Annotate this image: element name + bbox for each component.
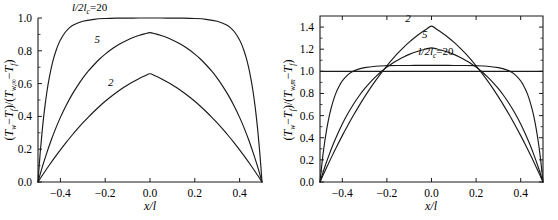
left-y-tick-labels: 0.00.20.40.60.81.0 [18, 12, 33, 188]
svg-text:(Tw−Tf)/(Tw,m−Tf): (Tw−Tf)/(Tw,m−Tf) [281, 60, 297, 141]
right-x-tickmarks [342, 16, 520, 182]
x-tick-label: 0.2 [469, 187, 484, 199]
curve-annotation-20: l/2lc=20 [72, 1, 108, 15]
curve-annotation-5: 5 [95, 33, 101, 45]
curve-annotation-20: l/2lc=20 [418, 45, 454, 59]
y-tick-label: 1.4 [300, 21, 315, 33]
left-axes-frame [38, 18, 262, 182]
curve-annotation-5: 5 [422, 28, 428, 40]
x-tick-label: 0.4 [514, 187, 529, 199]
y-tick-label: 1.0 [18, 12, 33, 24]
chart-panel-left: −0.4−0.20.00.20.4 0.00.20.40.60.81.0 l/2… [0, 0, 279, 220]
x-tick-label: −0.2 [95, 187, 116, 199]
right-chart-svg: −0.4−0.20.00.20.4 0.00.20.40.60.81.01.21… [279, 0, 558, 220]
y-tick-label: 0.6 [300, 110, 315, 122]
curve-series-l2lc20 [320, 65, 543, 182]
svg-text:(Tw−Tf)/(Tw,∞−Tf): (Tw−Tf)/(Tw,∞−Tf) [2, 60, 18, 141]
y-tick-label: 0.4 [18, 110, 33, 122]
x-tick-label: 0.0 [143, 187, 158, 199]
left-chart-svg: −0.4−0.20.00.20.4 0.00.20.40.60.81.0 l/2… [0, 0, 279, 220]
y-tick-label: 0.0 [300, 176, 315, 188]
x-tick-label: −0.4 [332, 187, 353, 199]
curve-series-l2lc20 [38, 18, 262, 182]
y-tick-label: 0.8 [18, 45, 33, 57]
y-tick-label: 0.4 [300, 132, 315, 144]
curve-series-5 [38, 33, 262, 182]
left-curve-annotations: l/2lc=2052 [72, 1, 114, 88]
right-y-tick-labels: 0.00.20.40.60.81.01.21.4 [300, 21, 315, 188]
y-tick-label: 0.2 [300, 154, 315, 166]
ylabel-den-sub1: w,m [288, 79, 297, 91]
annotation-value: =20 [436, 45, 454, 57]
annotation-l-over-2lc: l/2l [72, 1, 87, 13]
x-tick-label: −0.4 [50, 187, 71, 199]
chart-panel-right: −0.4−0.20.00.20.4 0.00.20.40.60.81.01.21… [279, 0, 558, 220]
left-x-tick-labels: −0.4−0.20.00.20.4 [50, 187, 247, 199]
curve-annotation-2: 2 [108, 76, 114, 88]
y-tick-label: 0.2 [18, 143, 33, 155]
right-x-tick-labels: −0.4−0.20.00.20.4 [332, 187, 528, 199]
left-x-axis-title: x/l [143, 199, 157, 213]
left-y-axis-title: (Tw−Tf)/(Tw,∞−Tf) [2, 60, 18, 141]
ylabel-den-sub1: w,∞ [9, 79, 18, 91]
y-tick-label: 1.0 [300, 65, 315, 77]
annotation-value: =20 [90, 1, 108, 13]
y-tick-label: 1.2 [300, 43, 315, 55]
figure-two-panel-line-charts: −0.4−0.20.00.20.4 0.00.20.40.60.81.0 l/2… [0, 0, 558, 220]
y-tick-label: 0.6 [18, 78, 33, 90]
left-x-tickmarks [60, 178, 239, 182]
right-y-axis-title: (Tw−Tf)/(Tw,m−Tf) [281, 60, 297, 141]
left-data-curves [38, 18, 262, 182]
x-tick-label: −0.2 [376, 187, 397, 199]
x-tick-label: 0.4 [232, 187, 247, 199]
y-tick-label: 0.0 [18, 176, 33, 188]
x-tick-label: 0.2 [188, 187, 203, 199]
right-axes-frame [320, 16, 543, 182]
y-tick-label: 0.8 [300, 87, 315, 99]
annotation-l-over-2lc: l/2l [418, 45, 433, 57]
x-tick-label: 0.0 [424, 187, 439, 199]
curve-annotation-2: 2 [405, 12, 411, 24]
right-x-axis-title: x/l [424, 199, 438, 213]
curve-series-2 [38, 74, 262, 182]
